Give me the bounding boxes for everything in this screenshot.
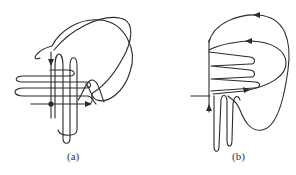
panel-a xyxy=(15,17,132,143)
panel-a-label: (a) xyxy=(67,150,79,162)
panel-b-arrow-up xyxy=(206,104,212,111)
panel-b-arrow-top-left xyxy=(253,12,260,18)
diagram-canvas xyxy=(0,0,296,175)
panel-a-vertical-lobes xyxy=(55,54,77,143)
panel-b-outer-loop xyxy=(209,15,289,130)
panel-b-horizontal-lobes xyxy=(209,52,260,91)
panel-a-saddle-point xyxy=(48,101,53,106)
panel-b-label: (b) xyxy=(232,150,245,162)
figure: (a) (b) xyxy=(0,0,296,175)
panel-a-outer-loop-3 xyxy=(78,80,104,102)
panel-a-arrow-down xyxy=(48,59,54,66)
panel-b-arrow-mid-left xyxy=(245,38,252,44)
panel-a-horizontal-lobes xyxy=(15,70,92,104)
panel-b xyxy=(191,12,289,151)
